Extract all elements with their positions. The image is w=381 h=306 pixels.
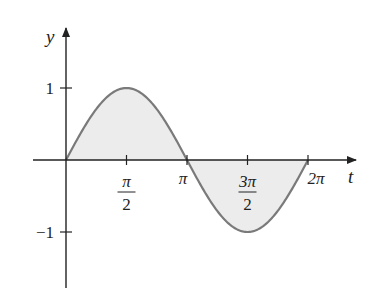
x-axis-label: t: [348, 166, 354, 187]
x-tick-label: π: [122, 172, 131, 191]
x-tick-label: 2: [243, 195, 252, 214]
x-tick-label: π: [179, 169, 188, 188]
y-tick-label: 1: [46, 79, 55, 98]
y-axis-label: y: [44, 26, 55, 47]
x-tick-label: 2: [122, 195, 131, 214]
y-tick-label: −1: [36, 223, 54, 242]
sine-chart: π2π3π22π1−1 t y: [0, 0, 381, 306]
x-tick-label: 3π: [238, 172, 257, 191]
x-tick-label: 2π: [307, 169, 325, 188]
